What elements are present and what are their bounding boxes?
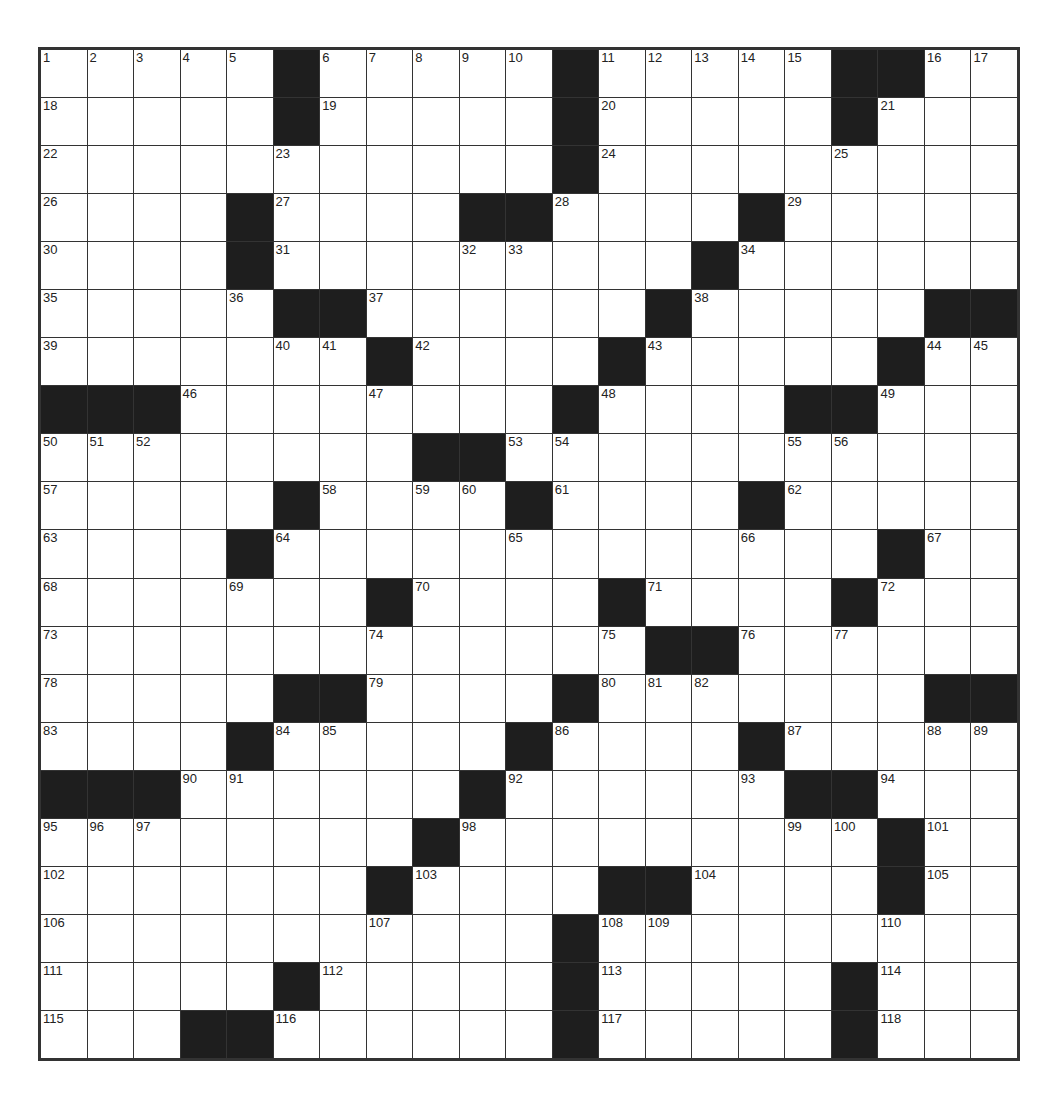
grid-cell[interactable]: 33 <box>506 242 552 289</box>
grid-cell[interactable] <box>134 146 180 193</box>
grid-cell[interactable]: 104 <box>692 867 738 914</box>
grid-cell[interactable] <box>553 867 599 914</box>
grid-cell[interactable]: 99 <box>785 819 831 866</box>
grid-cell[interactable] <box>274 579 320 626</box>
grid-cell[interactable]: 91 <box>227 771 273 818</box>
grid-cell[interactable] <box>925 482 971 529</box>
grid-cell[interactable]: 80 <box>599 675 645 722</box>
grid-cell[interactable] <box>460 867 506 914</box>
grid-cell[interactable] <box>878 434 924 481</box>
grid-cell[interactable]: 34 <box>739 242 785 289</box>
grid-cell[interactable]: 46 <box>181 386 227 433</box>
grid-cell[interactable] <box>274 627 320 674</box>
grid-cell[interactable] <box>692 915 738 962</box>
grid-cell[interactable] <box>785 1011 831 1058</box>
grid-cell[interactable]: 93 <box>739 771 785 818</box>
grid-cell[interactable] <box>134 98 180 145</box>
grid-cell[interactable]: 10 <box>506 50 552 97</box>
grid-cell[interactable] <box>88 146 134 193</box>
grid-cell[interactable] <box>181 290 227 337</box>
grid-cell[interactable]: 22 <box>41 146 87 193</box>
grid-cell[interactable]: 107 <box>367 915 413 962</box>
grid-cell[interactable]: 90 <box>181 771 227 818</box>
grid-cell[interactable] <box>88 98 134 145</box>
grid-cell[interactable] <box>460 146 506 193</box>
grid-cell[interactable]: 23 <box>274 146 320 193</box>
grid-cell[interactable] <box>553 290 599 337</box>
grid-cell[interactable]: 29 <box>785 194 831 241</box>
grid-cell[interactable]: 111 <box>41 963 87 1010</box>
grid-cell[interactable]: 62 <box>785 482 831 529</box>
grid-cell[interactable] <box>692 482 738 529</box>
grid-cell[interactable] <box>599 530 645 577</box>
grid-cell[interactable] <box>88 194 134 241</box>
grid-cell[interactable]: 115 <box>41 1011 87 1058</box>
grid-cell[interactable]: 97 <box>134 819 180 866</box>
grid-cell[interactable] <box>925 146 971 193</box>
grid-cell[interactable] <box>134 482 180 529</box>
grid-cell[interactable]: 4 <box>181 50 227 97</box>
grid-cell[interactable] <box>553 530 599 577</box>
grid-cell[interactable]: 108 <box>599 915 645 962</box>
grid-cell[interactable] <box>832 194 878 241</box>
grid-cell[interactable] <box>739 338 785 385</box>
grid-cell[interactable] <box>971 627 1017 674</box>
grid-cell[interactable] <box>181 434 227 481</box>
grid-cell[interactable] <box>134 579 180 626</box>
grid-cell[interactable] <box>785 242 831 289</box>
grid-cell[interactable] <box>320 242 366 289</box>
grid-cell[interactable] <box>553 627 599 674</box>
grid-cell[interactable] <box>320 579 366 626</box>
grid-cell[interactable] <box>413 675 459 722</box>
grid-cell[interactable] <box>320 386 366 433</box>
grid-cell[interactable] <box>506 963 552 1010</box>
grid-cell[interactable] <box>274 915 320 962</box>
grid-cell[interactable] <box>181 338 227 385</box>
grid-cell[interactable] <box>925 386 971 433</box>
grid-cell[interactable] <box>832 290 878 337</box>
grid-cell[interactable] <box>599 723 645 770</box>
grid-cell[interactable] <box>692 819 738 866</box>
grid-cell[interactable] <box>832 723 878 770</box>
grid-cell[interactable]: 53 <box>506 434 552 481</box>
grid-cell[interactable]: 54 <box>553 434 599 481</box>
grid-cell[interactable] <box>971 867 1017 914</box>
grid-cell[interactable] <box>181 675 227 722</box>
grid-cell[interactable] <box>832 915 878 962</box>
grid-cell[interactable] <box>506 819 552 866</box>
grid-cell[interactable] <box>971 530 1017 577</box>
grid-cell[interactable] <box>460 1011 506 1058</box>
grid-cell[interactable]: 65 <box>506 530 552 577</box>
grid-cell[interactable]: 94 <box>878 771 924 818</box>
grid-cell[interactable] <box>925 1011 971 1058</box>
grid-cell[interactable] <box>739 1011 785 1058</box>
grid-cell[interactable] <box>274 434 320 481</box>
grid-cell[interactable] <box>832 675 878 722</box>
grid-cell[interactable] <box>460 386 506 433</box>
grid-cell[interactable] <box>413 194 459 241</box>
grid-cell[interactable]: 74 <box>367 627 413 674</box>
grid-cell[interactable]: 85 <box>320 723 366 770</box>
grid-cell[interactable] <box>692 963 738 1010</box>
grid-cell[interactable] <box>925 915 971 962</box>
grid-cell[interactable] <box>88 242 134 289</box>
grid-cell[interactable] <box>134 1011 180 1058</box>
grid-cell[interactable] <box>785 530 831 577</box>
grid-cell[interactable] <box>274 867 320 914</box>
grid-cell[interactable] <box>460 579 506 626</box>
grid-cell[interactable] <box>971 98 1017 145</box>
grid-cell[interactable] <box>460 675 506 722</box>
grid-cell[interactable] <box>785 915 831 962</box>
grid-cell[interactable] <box>925 434 971 481</box>
grid-cell[interactable] <box>134 194 180 241</box>
grid-cell[interactable] <box>646 242 692 289</box>
grid-cell[interactable]: 88 <box>925 723 971 770</box>
grid-cell[interactable] <box>460 963 506 1010</box>
grid-cell[interactable]: 42 <box>413 338 459 385</box>
grid-cell[interactable] <box>832 242 878 289</box>
grid-cell[interactable] <box>134 338 180 385</box>
grid-cell[interactable]: 20 <box>599 98 645 145</box>
grid-cell[interactable] <box>227 98 273 145</box>
grid-cell[interactable] <box>832 338 878 385</box>
grid-cell[interactable] <box>88 963 134 1010</box>
